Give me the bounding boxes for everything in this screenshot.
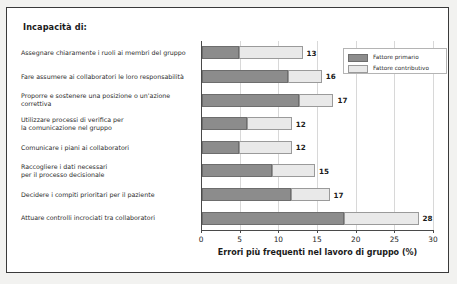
bar-segment-contributive	[272, 164, 315, 177]
legend-swatch	[348, 54, 368, 62]
category-label-line: la comunicazione nel gruppo	[21, 124, 197, 132]
bar-value-label: 16	[326, 72, 336, 81]
category-label: Fare assumere ai collaboratori le loro r…	[21, 73, 197, 81]
x-tick-label: 20	[351, 235, 360, 244]
category-label-column: Assegnare chiaramente i ruoli ai membri …	[21, 42, 197, 230]
bar-value-label: 12	[296, 143, 306, 152]
bar-row: 28	[202, 212, 435, 225]
chart-figure: Incapacità di: Assegnare chiaramente i r…	[0, 0, 457, 284]
category-label-line: per il processo decisionale	[21, 171, 197, 179]
category-label-line: Attuare controlli incrociati tra collabo…	[21, 214, 197, 222]
tick-mark	[356, 230, 357, 233]
bar-row: 15	[202, 164, 435, 177]
bar-value-label: 13	[307, 49, 317, 58]
bar-value-label: 12	[296, 120, 306, 129]
chart-frame: Incapacità di: Assegnare chiaramente i r…	[6, 7, 449, 273]
category-label: Attuare controlli incrociati tra collabo…	[21, 214, 197, 222]
tick-mark	[317, 230, 318, 233]
bar-segment-primary	[202, 212, 344, 225]
tick-mark	[433, 230, 434, 233]
bar-segment-primary	[202, 188, 291, 201]
bar-row: 17	[202, 94, 435, 107]
category-label-line: Raccogliere i dati necessari	[21, 163, 197, 171]
category-label-line: Assegnare chiaramente i ruoli ai membri …	[21, 49, 197, 57]
x-tick-label: 25	[390, 235, 399, 244]
bar-value-label: 17	[334, 191, 344, 200]
tick-mark	[394, 230, 395, 233]
x-tick-label: 5	[237, 235, 242, 244]
tick-mark	[201, 230, 202, 233]
category-label-line: Proporre e sostenere una posizione o un'…	[21, 92, 197, 100]
bar-segment-contributive	[291, 188, 330, 201]
bar-segment-contributive	[239, 46, 302, 59]
category-label: Decidere i compiti prioritari per il paz…	[21, 191, 197, 199]
bar-segment-contributive	[299, 94, 333, 107]
x-tick-label: 30	[428, 235, 437, 244]
x-tick-label: 10	[274, 235, 283, 244]
tick-mark	[240, 230, 241, 233]
bar-value-label: 28	[423, 214, 433, 223]
bar-row: 12	[202, 117, 435, 130]
category-label-line: Fare assumere ai collaboratori le loro r…	[21, 73, 197, 81]
category-label-line: Decidere i compiti prioritari per il paz…	[21, 191, 197, 199]
x-tick-label: 0	[199, 235, 204, 244]
tick-mark	[278, 230, 279, 233]
bar-segment-primary	[202, 141, 239, 154]
category-label: Utilizzare processi di verifica perla co…	[21, 116, 197, 131]
category-label: Comunicare i piani ai collaboratori	[21, 144, 197, 152]
bar-value-label: 15	[319, 167, 329, 176]
page-title: Incapacità di:	[23, 22, 87, 32]
category-label-line: Utilizzare processi di verifica per	[21, 116, 197, 124]
bar-segment-contributive	[239, 141, 292, 154]
legend-label: Fattore primario	[373, 54, 419, 60]
bar-row: 12	[202, 141, 435, 154]
category-label-line: correttiva	[21, 100, 197, 108]
bar-value-label: 17	[337, 96, 347, 105]
bar-segment-primary	[202, 164, 272, 177]
bar-segment-contributive	[344, 212, 419, 225]
bar-segment-primary	[202, 46, 239, 59]
category-label: Proporre e sostenere una posizione o un'…	[21, 92, 197, 107]
bar-segment-contributive	[288, 70, 322, 83]
legend-swatch	[348, 65, 368, 73]
bar-segment-contributive	[247, 117, 292, 130]
category-label: Assegnare chiaramente i ruoli ai membri …	[21, 49, 197, 57]
x-tick-label: 15	[312, 235, 321, 244]
bar-segment-primary	[202, 94, 299, 107]
category-label: Raccogliere i dati necessariper il proce…	[21, 163, 197, 178]
bar-row: 17	[202, 188, 435, 201]
legend-label: Fattore contributivo	[373, 65, 429, 71]
bar-segment-primary	[202, 117, 247, 130]
x-axis-title: Errori più frequenti nel lavoro di grupp…	[201, 248, 434, 257]
chart-legend: Fattore primarioFattore contributivo	[343, 48, 447, 74]
bar-segment-primary	[202, 70, 288, 83]
category-label-line: Comunicare i piani ai collaboratori	[21, 144, 197, 152]
